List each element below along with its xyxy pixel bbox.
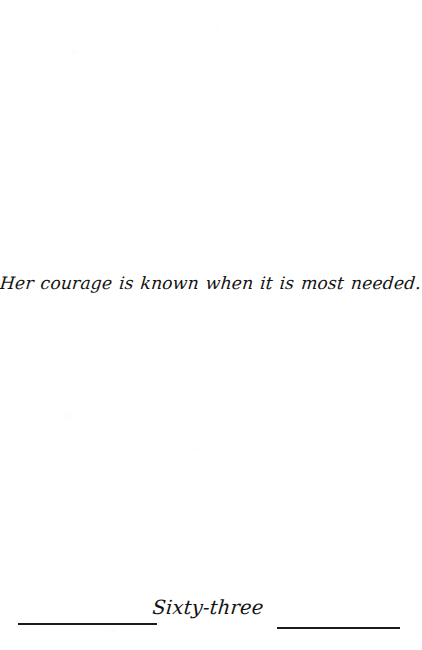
folio-rule-left <box>18 623 157 625</box>
epigraph-text: Her courage is known when it is most nee… <box>0 270 422 296</box>
folio-rule-right <box>277 627 400 629</box>
page-number: Sixty-three <box>0 593 417 623</box>
page-footer: Sixty-three <box>0 590 416 650</box>
epigraph-block: Her courage is known when it is most nee… <box>0 270 416 296</box>
